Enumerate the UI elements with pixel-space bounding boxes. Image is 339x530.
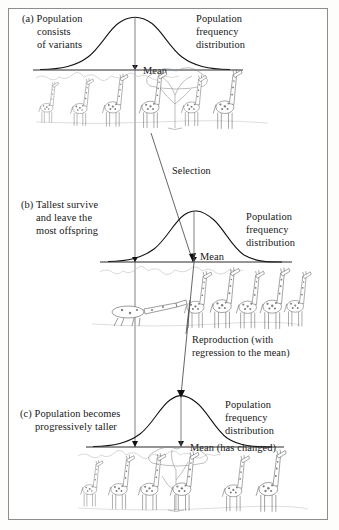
panel-c-dist-label-line-3: distribution xyxy=(225,425,274,437)
panel-b-dist-label-line-1: Population xyxy=(246,211,292,223)
panel-a-dist-label-line-1: Population xyxy=(196,13,242,25)
panel-a-dist-label-line-3: distribution xyxy=(196,39,245,51)
reproduction-label-line-1: Reproduction (with xyxy=(192,334,273,346)
panel-a-caption-line-3: of variants xyxy=(37,39,82,51)
figure-root: (a) Population consists of variants Popu… xyxy=(0,0,339,530)
figure-border xyxy=(8,8,328,520)
panel-b-caption-line-1: (b) Tallest survive xyxy=(21,199,98,211)
reproduction-label-line-2: regression to the mean) xyxy=(192,347,290,359)
panel-a-caption-line-1: (a) Population xyxy=(22,13,83,25)
panel-c-mean-label: Mean (has changed) xyxy=(190,442,276,454)
panel-b-caption-line-2: and leave the xyxy=(36,212,92,224)
panel-c-dist-label-line-1: Population xyxy=(225,399,271,411)
panel-b-mean-label: Mean xyxy=(200,251,224,263)
panel-a-dist-label-line-2: frequency xyxy=(196,26,238,38)
panel-c-caption-line-1: (c) Population becomes xyxy=(20,408,120,420)
panel-a-caption-line-2: consists xyxy=(37,26,71,38)
panel-c-dist-label-line-2: frequency xyxy=(225,412,267,424)
panel-b-caption-line-3: most offspring xyxy=(36,225,98,237)
panel-b-dist-label-line-2: frequency xyxy=(246,224,288,236)
panel-a-mean-label: Mean xyxy=(143,65,167,77)
selection-label: Selection xyxy=(172,165,211,177)
panel-b-dist-label-line-3: distribution xyxy=(246,237,295,249)
panel-c-caption-line-2: progressively taller xyxy=(35,421,117,433)
